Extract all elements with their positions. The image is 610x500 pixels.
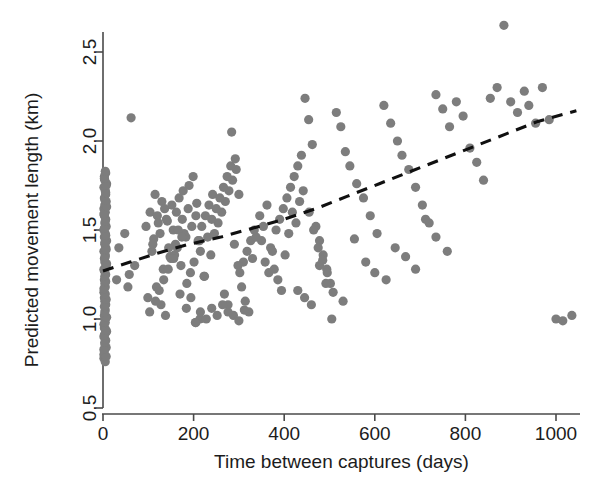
data-point — [372, 229, 381, 238]
data-point — [189, 172, 198, 181]
data-point — [366, 211, 375, 220]
data-point — [315, 261, 324, 270]
data-point — [290, 172, 299, 181]
data-point — [176, 261, 185, 270]
data-point — [327, 314, 336, 323]
data-point — [277, 286, 286, 295]
x-tick-label: 0 — [98, 423, 109, 444]
x-tick-label: 400 — [268, 423, 300, 444]
data-point — [431, 90, 440, 99]
data-point — [155, 286, 164, 295]
data-point — [379, 101, 388, 110]
data-point — [177, 233, 186, 242]
data-point — [215, 193, 224, 202]
data-point — [197, 222, 206, 231]
data-point — [234, 190, 243, 199]
data-point — [332, 108, 341, 117]
data-point — [187, 222, 196, 231]
data-point — [338, 297, 347, 306]
x-tick-label: 600 — [359, 423, 391, 444]
data-point — [120, 229, 129, 238]
y-axis-title: Predicted movement length (km) — [21, 93, 42, 368]
data-point — [520, 87, 529, 96]
data-point — [345, 161, 354, 170]
data-point — [352, 179, 361, 188]
data-point — [329, 288, 338, 297]
y-tick-label: 0.5 — [79, 395, 100, 421]
data-point — [300, 293, 309, 302]
data-point — [438, 104, 447, 113]
data-point — [186, 293, 195, 302]
data-point — [101, 167, 110, 176]
data-point — [262, 200, 271, 209]
data-point — [558, 316, 567, 325]
data-point — [196, 307, 205, 316]
data-point — [286, 183, 295, 192]
data-point — [212, 204, 221, 213]
data-point — [382, 275, 391, 284]
data-point — [431, 233, 440, 242]
data-point — [223, 172, 232, 181]
data-point — [397, 151, 406, 160]
data-point — [284, 229, 293, 238]
data-point — [179, 186, 188, 195]
data-point — [248, 254, 257, 263]
data-point — [126, 113, 135, 122]
data-point — [259, 222, 268, 231]
data-point — [282, 193, 291, 202]
data-point — [162, 215, 171, 224]
data-point — [241, 297, 250, 306]
data-point — [257, 236, 266, 245]
data-point — [304, 115, 313, 124]
data-point — [154, 218, 163, 227]
data-point — [271, 225, 280, 234]
x-axis-title: Time between captures (days) — [214, 451, 469, 472]
data-point — [472, 158, 481, 167]
data-point — [186, 268, 195, 277]
y-tick-label: 2.5 — [79, 39, 100, 65]
data-point — [182, 279, 191, 288]
data-point — [359, 193, 368, 202]
y-tick-label: 1.0 — [79, 306, 100, 332]
data-point — [493, 83, 502, 92]
data-point — [169, 254, 178, 263]
data-point — [279, 204, 288, 213]
data-point — [184, 204, 193, 213]
data-point — [391, 243, 400, 252]
data-point — [445, 122, 454, 131]
data-point — [233, 261, 242, 270]
data-point — [148, 240, 157, 249]
data-point — [192, 199, 201, 208]
data-point — [418, 200, 427, 209]
data-point — [459, 111, 468, 120]
data-point — [145, 307, 154, 316]
data-point — [207, 215, 216, 224]
data-point — [350, 234, 359, 243]
data-point — [151, 297, 160, 306]
data-point — [230, 240, 239, 249]
data-point — [159, 275, 168, 284]
data-point — [308, 140, 317, 149]
data-point — [227, 128, 236, 137]
data-point — [370, 268, 379, 277]
data-point — [323, 268, 332, 277]
data-point — [191, 211, 200, 220]
data-point — [240, 306, 249, 315]
data-point — [264, 268, 273, 277]
data-point — [361, 257, 370, 266]
data-point — [293, 286, 302, 295]
data-point — [307, 300, 316, 309]
data-point — [200, 272, 209, 281]
data-point — [150, 190, 159, 199]
data-point — [524, 101, 533, 110]
data-point — [281, 250, 290, 259]
data-point — [309, 225, 318, 234]
data-point — [499, 21, 508, 30]
data-point — [182, 304, 191, 313]
data-point — [255, 211, 264, 220]
data-points — [99, 21, 576, 367]
data-point — [386, 119, 395, 128]
data-point — [411, 183, 420, 192]
data-point — [161, 311, 170, 320]
data-point — [219, 183, 228, 192]
